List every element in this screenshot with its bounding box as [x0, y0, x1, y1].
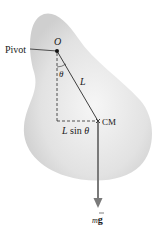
weight-label: mg: [92, 214, 103, 225]
length-label: L: [79, 76, 86, 87]
cm-label: CM: [102, 117, 116, 127]
rigid-body: [24, 13, 152, 180]
weight-arrow-head: [94, 198, 103, 208]
lever-arm-label: L sin θ: [61, 125, 89, 136]
angle-label: θ: [59, 69, 64, 79]
origin-label: O: [54, 36, 61, 47]
pendulum-diagram: Pivot O θ L L sin θ CM mg: [0, 0, 160, 239]
pivot-label: Pivot: [5, 44, 26, 55]
pivot-point: [55, 49, 59, 53]
